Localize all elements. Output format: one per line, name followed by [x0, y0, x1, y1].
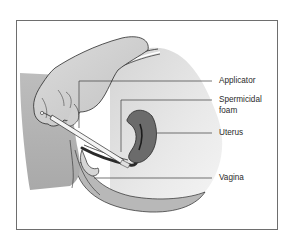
- anatomy-illustration: [0, 0, 291, 242]
- label-vagina: Vagina: [219, 173, 244, 183]
- label-applicator: Applicator: [219, 76, 255, 86]
- label-foam: foam: [219, 106, 237, 116]
- label-uterus: Uterus: [219, 128, 243, 138]
- torso-shape: [110, 48, 222, 205]
- label-spermicidal: Spermicidal: [219, 95, 262, 105]
